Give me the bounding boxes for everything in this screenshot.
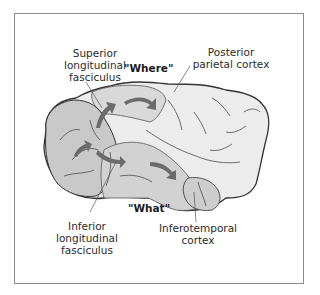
label-line: Superior	[50, 47, 140, 59]
what-stream-label: "What"	[128, 202, 170, 214]
label-line: cortex	[158, 234, 238, 246]
label-line: Inferior	[47, 220, 127, 232]
label-line: Posterior	[186, 46, 276, 58]
label-line: Inferotemporal	[158, 222, 238, 234]
where-stream-label: "Where"	[124, 62, 173, 74]
label-line: longitudinal	[47, 232, 127, 244]
label-line: fasciculus	[47, 244, 127, 256]
label-line: parietal cortex	[186, 58, 276, 70]
label-inferior-longitudinal-fasciculus: Inferior longitudinal fasciculus	[47, 220, 127, 256]
label-inferotemporal-cortex: Inferotemporal cortex	[158, 222, 238, 246]
label-posterior-parietal-cortex: Posterior parietal cortex	[186, 46, 276, 70]
